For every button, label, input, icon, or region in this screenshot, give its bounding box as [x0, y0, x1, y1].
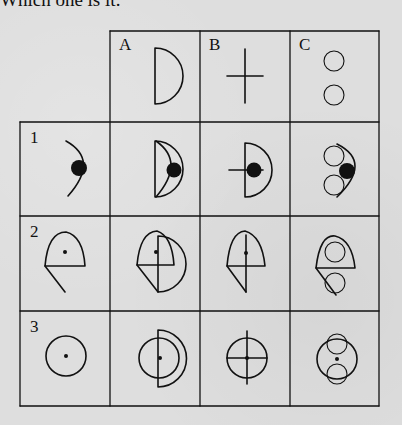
- cell-3c-figure: [317, 334, 357, 384]
- column-label-a: A: [119, 35, 132, 54]
- cell-2b-figure: [227, 231, 265, 292]
- figure-matrix: A B C 1 2 3: [0, 0, 402, 425]
- row-label-3: 3: [30, 317, 39, 336]
- cell-2a-figure: [137, 231, 186, 292]
- cell-3b-figure: [227, 331, 267, 384]
- cell-3a-figure: [139, 330, 187, 387]
- column-label-b: B: [209, 35, 220, 54]
- column-label-c: C: [299, 35, 310, 54]
- cell-2c-figure: [316, 236, 355, 295]
- half-disc-icon: [155, 48, 183, 104]
- cell-1c-figure: [324, 144, 355, 197]
- row-label-1: 1: [30, 128, 39, 147]
- arc-with-dot-icon: [66, 141, 87, 196]
- cell-1a-figure: [155, 141, 183, 197]
- plus-icon: [227, 49, 263, 103]
- dome-with-tail-icon: [45, 232, 85, 292]
- circle-with-dot-icon: [46, 336, 86, 376]
- two-circles-icon: [324, 51, 344, 105]
- grid-lines: [20, 31, 379, 406]
- cell-1b-figure: [229, 143, 272, 197]
- row-label-2: 2: [30, 222, 39, 241]
